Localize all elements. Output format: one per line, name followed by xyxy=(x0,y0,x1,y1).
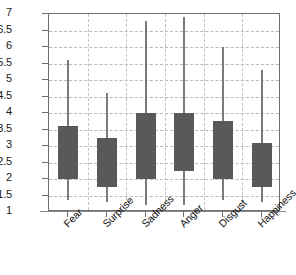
y-axis-tick-label: 6.5 xyxy=(0,24,12,35)
plot-area xyxy=(48,13,280,211)
y-axis-tick-label: 2 xyxy=(0,172,12,183)
y-axis-tick-label: 3 xyxy=(0,139,12,150)
bar-group[interactable] xyxy=(204,14,243,210)
y-axis-tick-label: 2.5 xyxy=(0,156,12,167)
y-axis-tick-label: 4 xyxy=(0,106,12,117)
y-axis-tick-label: 5 xyxy=(0,73,12,84)
y-axis-tick-label: 7 xyxy=(0,7,12,18)
bar-box[interactable] xyxy=(174,113,194,171)
bar-group[interactable] xyxy=(126,14,165,210)
y-axis-tick-label: 6 xyxy=(0,40,12,51)
bar-box[interactable] xyxy=(213,121,233,179)
bar-series xyxy=(49,14,279,210)
y-axis-tick-label: 4.5 xyxy=(0,90,12,101)
bar-group[interactable] xyxy=(88,14,127,210)
y-axis-tick-label: 1.5 xyxy=(0,189,12,200)
bar-box[interactable] xyxy=(136,113,156,179)
bar-box[interactable] xyxy=(58,126,78,179)
y-axis-tick-label: 3.5 xyxy=(0,123,12,134)
bar-box[interactable] xyxy=(252,143,272,188)
chart-container: 76.565.554.543.532.521.51 FearSurpriseSa… xyxy=(0,0,296,275)
bar-group[interactable] xyxy=(242,14,281,210)
y-axis-tick-label: 1 xyxy=(0,205,12,216)
bar-box[interactable] xyxy=(97,138,117,188)
y-axis-tick-label: 5.5 xyxy=(0,57,12,68)
bar-group[interactable] xyxy=(49,14,88,210)
whisker-line xyxy=(183,17,185,205)
bar-group[interactable] xyxy=(165,14,204,210)
